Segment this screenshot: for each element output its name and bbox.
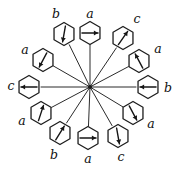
center-hub-dot bbox=[88, 85, 92, 89]
node-label-c: c bbox=[7, 78, 14, 93]
node-upper-left-outer: b bbox=[52, 6, 74, 46]
node-label-a: a bbox=[147, 116, 154, 131]
node-lower-left-outer: b bbox=[50, 122, 70, 162]
node-upper-right-inner: a bbox=[129, 41, 162, 73]
spoke-line bbox=[90, 87, 123, 107]
node-label-b: b bbox=[52, 6, 60, 21]
node-label-a: a bbox=[86, 6, 93, 21]
spoke-line bbox=[88, 87, 90, 126]
node-label-c: c bbox=[117, 149, 124, 164]
node-bottom-center: a bbox=[78, 127, 98, 166]
node-upper-right-outer: c bbox=[113, 11, 140, 50]
spoke-line bbox=[90, 67, 128, 87]
node-label-c: c bbox=[133, 11, 140, 26]
node-label-a: a bbox=[84, 151, 91, 166]
spokes-group bbox=[41, 45, 136, 126]
node-label-a: a bbox=[154, 41, 161, 56]
node-lower-left-inner: a bbox=[18, 102, 51, 128]
node-label-a: a bbox=[21, 42, 28, 57]
node-lower-right-inner: a bbox=[123, 102, 155, 131]
node-top-center: a bbox=[80, 6, 100, 45]
node-lower-right-outer: c bbox=[108, 125, 128, 164]
node-label-b: b bbox=[50, 147, 58, 162]
spoke-line bbox=[90, 87, 112, 126]
node-right-center: b bbox=[138, 76, 172, 99]
diagram-canvas: acabacabacab bbox=[0, 0, 181, 170]
node-upper-left-inner: a bbox=[21, 42, 53, 72]
node-left-center: c bbox=[7, 76, 38, 99]
radial-hexagon-diagram: acabacabacab bbox=[0, 0, 181, 170]
spoke-line bbox=[90, 48, 116, 87]
spoke-line bbox=[67, 87, 90, 123]
node-label-a: a bbox=[18, 113, 25, 128]
node-label-b: b bbox=[164, 80, 172, 95]
spoke-line bbox=[52, 87, 90, 107]
